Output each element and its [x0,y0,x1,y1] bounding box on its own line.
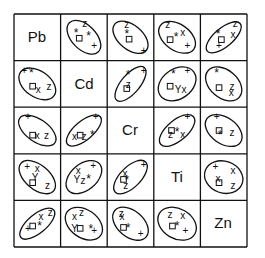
scatter-cell-r2-c4: +*z [199,108,248,153]
point-marker-x: x [72,211,77,222]
square-marker-icon [167,37,173,43]
scatter-cell-r1-c2: *z+ [110,61,152,106]
point-marker-star: * [175,125,180,139]
point-marker-plus: + [212,161,218,172]
confidence-ellipse [200,156,248,199]
point-marker-z: z [81,131,86,142]
scatter-cell-r4-c1: xzY*+ [59,200,109,246]
point-marker-z: z [230,127,235,138]
point-marker-star: * [171,67,176,81]
scatter-cell-r2-c0: +xz [13,109,61,152]
diagonal-label-zn: Zn [214,214,232,231]
point-marker-plus: + [141,159,147,170]
scatter-cell-r4-c3: zx*+ [152,201,202,247]
point-marker-z: z [80,175,85,186]
point-marker-plus: + [91,40,97,51]
scatter-cell-r0-c4: zx*+ [201,16,246,58]
point-marker-plus: + [214,111,220,122]
point-marker-star: * [37,219,42,233]
point-marker-plus: + [24,161,30,172]
point-marker-plus: + [184,40,190,51]
point-marker-star: * [126,221,131,235]
scatter-cell-r0-c2: z*+ [107,15,154,60]
scatterplot-matrix: z**+z*+z*x+zx*++*xz*z++*Yx*zx+xz+xz*+z*x… [0,0,265,258]
point-marker-x: x [120,211,125,222]
point-marker-plus: + [25,111,31,122]
point-marker-z: z [46,81,51,92]
point-marker-star: * [218,128,223,142]
point-marker-x: x [180,27,185,38]
point-marker-plus: + [93,111,99,122]
point-marker-star: * [86,172,91,186]
point-marker-z: z [82,18,87,29]
point-marker-x: x [229,87,234,98]
scatter-cell-r2-c1: +xz* [61,110,106,152]
point-marker-z: z [168,209,173,220]
point-marker-plus: + [184,111,190,122]
diagonal-label-cd: Cd [74,75,93,92]
point-marker-x: x [182,84,187,95]
point-marker-z: z [168,129,173,140]
scatter-cell-r3-c0: +xYz [13,154,61,200]
confidence-ellipse [199,108,248,153]
point-marker-z: z [45,180,50,191]
square-marker-icon [77,226,83,232]
point-marker-plus: + [91,225,97,236]
square-marker-icon [167,83,173,89]
point-marker-x: x [231,165,236,176]
point-marker-star: * [90,128,95,142]
point-marker-star: * [29,66,34,80]
diagonal-label-ti: Ti [171,168,183,185]
scatter-cell-r3-c4: +xxz [200,156,248,199]
scatter-cell-r0-c3: z*x+ [153,15,202,60]
point-marker-star: * [175,219,180,233]
point-marker-star: * [124,27,129,41]
scatter-cell-r1-c0: +*xz [13,61,62,106]
point-marker-x: x [35,130,40,141]
point-marker-plus: + [141,65,147,76]
diagonal-label-pb: Pb [28,28,46,45]
point-marker-plus: + [184,65,190,76]
point-marker-z: z [123,180,128,191]
scatter-cell-r1-c4: *zx [199,60,248,108]
scatter-cell-r0-c1: z**+ [61,14,107,60]
point-marker-plus: + [138,228,144,239]
diagonal-label-cr: Cr [122,121,138,138]
point-marker-z: z [79,207,84,218]
point-marker-z: z [48,207,53,218]
scatter-cell-r3-c1: +xYz* [60,154,108,200]
point-marker-z: z [165,19,170,30]
scatter-cell-r3-c2: +x*z [108,155,153,200]
point-marker-x: x [231,29,236,40]
confidence-ellipse [107,15,154,60]
point-marker-z: z [233,18,238,29]
point-marker-z: z [231,180,236,191]
point-marker-plus: + [183,225,189,236]
square-marker-icon [216,85,222,91]
point-marker-x: x [72,131,77,142]
point-marker-plus: + [141,45,147,56]
point-marker-plus: + [216,40,222,51]
point-marker-star: * [174,30,179,44]
scatter-cell-r4-c2: zx*+ [106,201,154,247]
point-marker-z: z [44,130,49,141]
scatter-cell-r2-c3: +z*x [154,109,200,152]
point-marker-plus: + [25,223,31,234]
point-marker-plus: + [90,160,96,171]
point-marker-star: * [214,66,219,80]
point-marker-x: x [180,129,185,140]
point-marker-x: x [36,84,41,95]
scatter-cell-r1-c3: +*Yx [152,60,203,108]
confidence-ellipse [199,60,248,108]
square-marker-icon [30,83,36,89]
point-marker-plus: + [21,65,27,76]
point-marker-x: x [180,210,185,221]
scatter-cell-r4-c0: zx*+ [15,203,60,245]
